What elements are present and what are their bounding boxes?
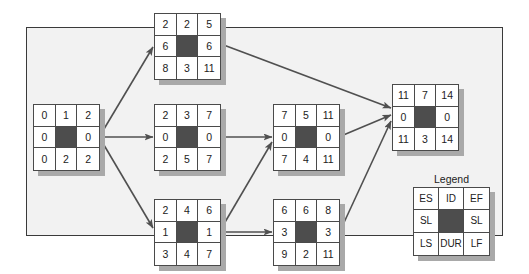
late-start: 8 — [155, 57, 177, 79]
activity-node-2: 2 2 5 6 6 8 3 11 — [154, 13, 221, 80]
duration: 2 — [56, 148, 78, 170]
late-finish: 11 — [198, 57, 220, 79]
slack-left: 0 — [393, 107, 415, 129]
late-finish: 2 — [77, 148, 99, 170]
slack-right: 0 — [198, 127, 220, 149]
slack-left: 0 — [34, 127, 56, 149]
late-start: 9 — [274, 243, 296, 265]
arrow-4-to-5 — [221, 142, 272, 229]
activity-node-6: 6 6 8 3 3 9 2 11 — [273, 199, 340, 266]
late-start: 3 — [155, 243, 177, 265]
early-finish: 8 — [317, 200, 339, 222]
legend-lf: LF — [464, 233, 489, 255]
slack-left: 3 — [274, 222, 296, 244]
arrow-1-to-2 — [101, 47, 153, 134]
duration: 5 — [177, 148, 199, 170]
early-finish: 11 — [317, 105, 339, 127]
slack-left: 0 — [274, 127, 296, 149]
activity-node-3: 2 3 7 0 0 2 5 7 — [154, 104, 221, 171]
early-finish: 7 — [198, 105, 220, 127]
activity-id: 6 — [296, 200, 318, 222]
activity-node-5: 7 5 11 0 0 7 4 11 — [273, 104, 340, 171]
late-finish: 7 — [198, 243, 220, 265]
legend-node: ES ID EF SL SL LS DUR LF — [413, 187, 490, 256]
activity-node-7: 11 7 14 0 0 11 3 14 — [392, 84, 459, 151]
early-start: 6 — [274, 200, 296, 222]
early-start: 0 — [34, 105, 56, 127]
node-center — [177, 36, 199, 58]
legend-ls: LS — [414, 233, 439, 255]
slack-right: 0 — [77, 127, 99, 149]
node-center — [296, 127, 318, 149]
early-start: 7 — [274, 105, 296, 127]
early-finish: 5 — [198, 14, 220, 36]
late-finish: 11 — [317, 148, 339, 170]
arrow-2-to-7 — [221, 44, 391, 108]
duration: 3 — [415, 128, 437, 150]
legend-dur: DUR — [439, 233, 464, 255]
duration: 4 — [177, 243, 199, 265]
legend-id: ID — [439, 188, 464, 210]
late-start: 0 — [34, 148, 56, 170]
slack-left: 1 — [155, 222, 177, 244]
activity-id: 4 — [177, 200, 199, 222]
duration: 4 — [296, 148, 318, 170]
early-start: 11 — [393, 85, 415, 107]
arrow-1-to-4 — [101, 140, 153, 228]
early-finish: 14 — [436, 85, 458, 107]
legend-ef: EF — [464, 188, 489, 210]
slack-right: 0 — [436, 107, 458, 129]
activity-id: 2 — [177, 14, 199, 36]
late-start: 2 — [155, 148, 177, 170]
slack-left: 6 — [155, 36, 177, 58]
late-finish: 14 — [436, 128, 458, 150]
node-center — [415, 107, 437, 129]
slack-right: 3 — [317, 222, 339, 244]
late-start: 11 — [393, 128, 415, 150]
late-finish: 7 — [198, 148, 220, 170]
early-finish: 6 — [198, 200, 220, 222]
activity-id: 7 — [415, 85, 437, 107]
node-center — [296, 222, 318, 244]
legend-center — [439, 210, 464, 232]
early-finish: 2 — [77, 105, 99, 127]
slack-right: 6 — [198, 36, 220, 58]
arrow-6-to-7 — [341, 121, 391, 229]
activity-node-4: 2 4 6 1 1 3 4 7 — [154, 199, 221, 266]
legend-es: ES — [414, 188, 439, 210]
duration: 3 — [177, 57, 199, 79]
node-center — [177, 127, 199, 149]
slack-right: 0 — [317, 127, 339, 149]
late-finish: 11 — [317, 243, 339, 265]
early-start: 2 — [155, 200, 177, 222]
legend-sl-right: SL — [464, 210, 489, 232]
activity-id: 5 — [296, 105, 318, 127]
activity-id: 1 — [56, 105, 78, 127]
node-center — [56, 127, 78, 149]
late-start: 7 — [274, 148, 296, 170]
legend-title: Legend — [413, 173, 490, 185]
duration: 2 — [296, 243, 318, 265]
slack-left: 0 — [155, 127, 177, 149]
slack-right: 1 — [198, 222, 220, 244]
activity-node-1: 0 1 2 0 0 0 2 2 — [33, 104, 100, 171]
legend-sl-left: SL — [414, 210, 439, 232]
arrow-5-to-7 — [341, 115, 391, 136]
early-start: 2 — [155, 14, 177, 36]
activity-id: 3 — [177, 105, 199, 127]
node-center — [177, 222, 199, 244]
early-start: 2 — [155, 105, 177, 127]
